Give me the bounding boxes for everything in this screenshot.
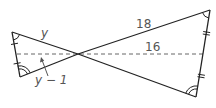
bowtie-triangles-diagram: y y − 1 18 16 bbox=[0, 0, 216, 108]
label-right-segment: 16 bbox=[145, 40, 160, 54]
label-left-segment: y − 1 bbox=[34, 73, 67, 87]
label-right-top-side: 18 bbox=[136, 17, 151, 31]
label-left-top-side: y bbox=[40, 26, 49, 40]
